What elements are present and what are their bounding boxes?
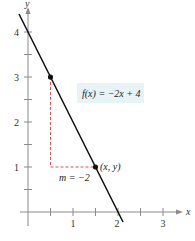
function-graph: 1 2 3 1 2 3 4 x y f(x) = −2x + 4 (x, y) … [0,0,195,241]
function-line [19,14,123,222]
x-tick-label-1: 1 [71,218,76,229]
point-upper [48,74,53,79]
x-axis-label: x [185,206,191,217]
x-tick-label-2: 2 [115,218,120,229]
y-tick-label-1: 1 [14,162,19,173]
y-tick-label-3: 3 [14,72,19,83]
point-label: (x, y) [100,161,121,173]
slope-label: m = −2 [59,172,90,183]
x-axis-arrow-icon [176,210,183,215]
y-tick-label-4: 4 [14,27,19,38]
y-tick-label-2: 2 [14,117,19,128]
function-label: f(x) = −2x + 4 [82,88,141,100]
y-axis-label: y [24,0,30,9]
point-xy [93,164,98,169]
axes [20,7,183,226]
x-tick-label-3: 3 [161,218,166,229]
